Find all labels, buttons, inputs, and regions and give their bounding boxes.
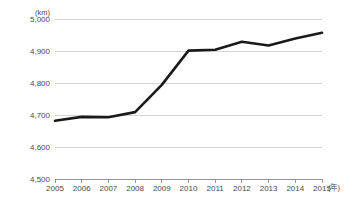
- y-axis-tick-label: 4,600: [30, 143, 51, 152]
- x-axis-tick-label: 2012: [233, 184, 251, 193]
- y-axis-unit-label: (km): [35, 8, 50, 17]
- x-axis-tick-label: 2005: [46, 184, 64, 193]
- y-axis-tick-label: 4,800: [30, 79, 51, 88]
- x-axis-tick-label: 2008: [126, 184, 144, 193]
- chart-background: [0, 0, 355, 198]
- x-axis-tick-label: 2013: [260, 184, 278, 193]
- chart-canvas: 4,5004,6004,7004,8004,9005,000 (km) 2005…: [0, 0, 355, 198]
- x-axis-tick-label: 2010: [180, 184, 198, 193]
- x-axis-tick-label: 2014: [286, 184, 304, 193]
- y-axis-tick-label: 4,900: [30, 47, 51, 56]
- line-chart: 4,5004,6004,7004,8004,9005,000 (km) 2005…: [0, 0, 355, 198]
- y-axis-tick-label: 4,700: [30, 111, 51, 120]
- y-axis-tick-label: 4,500: [30, 175, 51, 184]
- x-axis-tick-label: 2006: [73, 184, 91, 193]
- x-axis-tick-label: 2009: [153, 184, 171, 193]
- x-axis-unit-label: (年): [328, 182, 340, 192]
- x-axis-tick-label: 2007: [100, 184, 118, 193]
- x-axis-tick-labels: 2005200620072008200920102011201220132014…: [46, 184, 331, 193]
- x-axis-tick-label: 2011: [207, 184, 225, 193]
